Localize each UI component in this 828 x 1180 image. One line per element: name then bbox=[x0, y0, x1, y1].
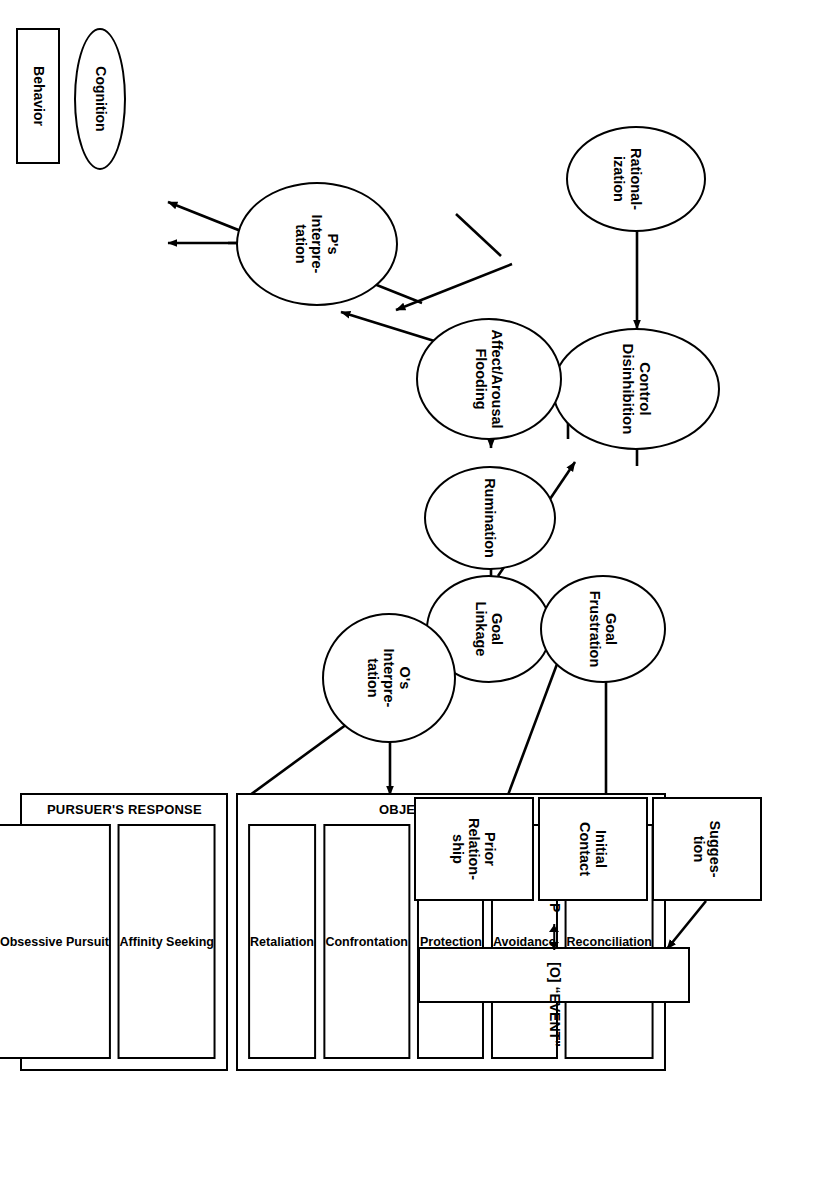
box-initial-contact[interactable]: Initial Contact bbox=[538, 797, 648, 901]
node-goal-frustration-label-1: Goal bbox=[603, 610, 619, 648]
group-pursuers-response-items: Affinity Seeking Obsessive Pursuit Aggre… bbox=[22, 824, 226, 1069]
box-prior-relationship-label-2: Relation- bbox=[466, 815, 482, 883]
group-pursuers-response-title: PURSUER'S RESPONSE bbox=[22, 795, 226, 824]
event-left-label: P bbox=[546, 900, 562, 915]
group-pursuers-response[interactable]: PURSUER'S RESPONSE Affinity Seeking Obse… bbox=[20, 793, 228, 1071]
legend-cognition-label: Cognition bbox=[92, 63, 108, 134]
node-goal-frustration-label-2: Frustration bbox=[587, 588, 603, 671]
legend-behavior-shape: Behavior bbox=[16, 28, 60, 164]
event-right-label: [O] “EVENT” bbox=[546, 959, 562, 1050]
node-ps-interpretation-label-1: P's bbox=[325, 230, 341, 257]
node-goal-linkage-label-1: Goal bbox=[489, 610, 505, 648]
diagram-canvas: Rational- ization Control Disinhibition … bbox=[0, 0, 828, 1180]
box-prior-relationship-label-3: ship bbox=[450, 831, 466, 867]
double-headed-arrow-icon bbox=[548, 919, 560, 955]
box-prior-relationship-label-1: Prior bbox=[482, 829, 498, 869]
item-affinity-seeking[interactable]: Affinity Seeking bbox=[118, 824, 216, 1059]
node-goal-frustration[interactable]: Goal Frustration bbox=[540, 575, 666, 683]
box-suggestion-label-2: tion bbox=[691, 833, 707, 866]
node-os-interpretation-label-3: tation bbox=[365, 655, 381, 700]
edge-pursuers-response-os-interpretation bbox=[250, 716, 358, 795]
node-control-disinhibition-label-2: Disinhibition bbox=[619, 341, 636, 438]
node-rumination-label: Rumination bbox=[482, 475, 498, 561]
box-prior-relationship[interactable]: Prior Relation- ship bbox=[414, 797, 534, 901]
node-goal-linkage-label-2: Linkage bbox=[473, 599, 489, 660]
node-affect-label-1: Affect/Arousal bbox=[489, 326, 505, 431]
node-os-interpretation-label-2: Interpre- bbox=[381, 646, 397, 711]
edge-control-ps-interpretation bbox=[396, 264, 512, 310]
item-confrontation[interactable]: Confrontation bbox=[323, 824, 410, 1059]
node-os-interpretation[interactable]: O's Interpre- tation bbox=[322, 613, 456, 743]
item-obsessive-pursuit[interactable]: Obsessive Pursuit bbox=[0, 824, 111, 1059]
node-rationalization-line2-holder: ization bbox=[566, 126, 706, 232]
node-os-interpretation-label-1: O's bbox=[397, 664, 413, 693]
node-ps-interpretation[interactable]: P's Interpre- tation bbox=[236, 182, 398, 306]
box-event[interactable]: P [O] “EVENT” bbox=[418, 947, 690, 1003]
legend-cognition-shape: Cognition bbox=[74, 28, 126, 170]
event-inner: P [O] “EVENT” bbox=[546, 900, 562, 1050]
edge-affect-ps-interpretation bbox=[341, 312, 444, 344]
node-rationalization-label-2: ization bbox=[611, 153, 627, 205]
box-initial-contact-label-1: Initial bbox=[593, 827, 609, 871]
node-affect-arousal-flooding[interactable]: Affect/Arousal Flooding bbox=[416, 318, 562, 440]
edge-control-stub bbox=[456, 214, 501, 256]
node-rumination[interactable]: Rumination bbox=[424, 466, 556, 570]
node-ps-interpretation-label-2: Interpre- bbox=[309, 212, 325, 277]
legend-behavior-label: Behavior bbox=[30, 63, 46, 129]
item-retaliation[interactable]: Retaliation bbox=[248, 824, 316, 1059]
edge-suggestion-event bbox=[667, 901, 706, 949]
box-suggestion-label-1: Sugges- bbox=[707, 817, 723, 880]
node-affect-label-2: Flooding bbox=[473, 345, 489, 412]
node-control-disinhibition[interactable]: Control Disinhibition bbox=[552, 328, 720, 450]
box-initial-contact-label-2: Contact bbox=[577, 819, 593, 879]
node-ps-interpretation-label-3: tation bbox=[293, 221, 309, 266]
node-control-disinhibition-label-1: Control bbox=[636, 359, 653, 418]
box-suggestion[interactable]: Sugges- tion bbox=[652, 797, 762, 901]
